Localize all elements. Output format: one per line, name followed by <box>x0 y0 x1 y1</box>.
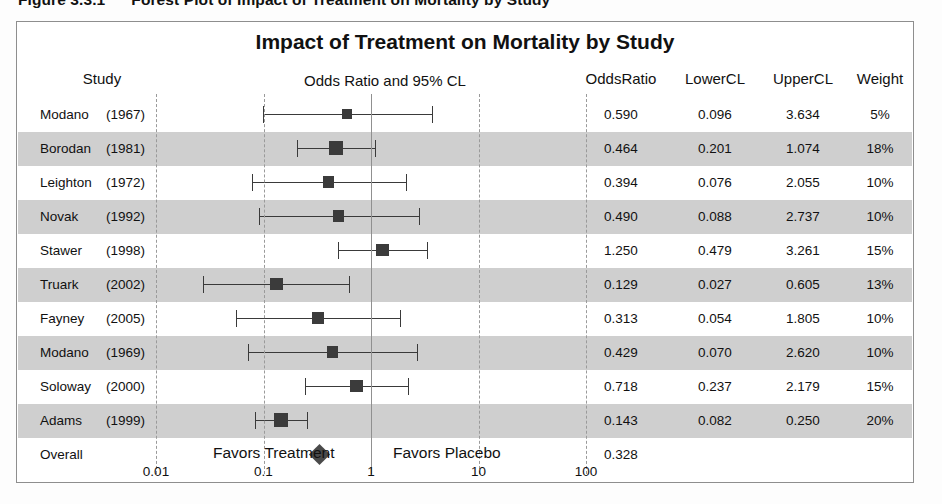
axis-favors-treatment-label: Favors Treatment <box>213 444 334 462</box>
row-odds-ratio-value: 0.590 <box>573 107 669 122</box>
row-odds-ratio-value: 0.490 <box>573 209 669 224</box>
table-row: Truark(2002)0.1290.0270.60513% <box>18 268 912 302</box>
ci-cap-lower <box>263 106 264 123</box>
column-header-plot: Odds Ratio and 95% CL <box>209 72 561 89</box>
row-odds-ratio-value: 0.464 <box>573 141 669 156</box>
study-year: (1967) <box>106 107 145 122</box>
row-study-label: Modano(1969) <box>40 345 175 360</box>
column-header-study: Study <box>41 70 163 87</box>
point-estimate-box <box>329 141 343 155</box>
row-upper-cl-value: 3.261 <box>761 243 845 258</box>
row-upper-cl-value: 1.074 <box>761 141 845 156</box>
table-row: Borodan(1981)0.4640.2011.07418% <box>18 132 912 166</box>
row-odds-ratio-value: 0.313 <box>573 311 669 326</box>
row-lower-cl-value: 0.096 <box>673 107 757 122</box>
table-row: Leighton(1972)0.3940.0762.05510% <box>18 166 912 200</box>
study-year: (2002) <box>106 277 145 292</box>
point-estimate-box <box>333 210 345 222</box>
row-odds-ratio-value: 0.394 <box>573 175 669 190</box>
study-year: (2000) <box>106 379 145 394</box>
row-lower-cl-value: 0.076 <box>673 175 757 190</box>
row-lower-cl-value: 0.027 <box>673 277 757 292</box>
ci-cap-upper <box>406 174 407 191</box>
ci-cap-upper <box>400 310 401 327</box>
row-study-label: Truark(2002) <box>40 277 175 292</box>
point-estimate-box <box>274 413 288 427</box>
column-header-weight: Weight <box>847 70 913 87</box>
ci-cap-upper <box>417 344 418 361</box>
study-year: (1999) <box>106 413 145 428</box>
row-lower-cl-value: 0.070 <box>673 345 757 360</box>
study-year: (1998) <box>106 243 145 258</box>
study-name: Truark <box>40 277 106 292</box>
row-weight-value: 15% <box>847 243 913 258</box>
row-study-label: Borodan(1981) <box>40 141 175 156</box>
x-tick-label-100: 100 <box>556 464 616 479</box>
study-name: Soloway <box>40 379 106 394</box>
row-study-label: Stawer(1998) <box>40 243 175 258</box>
row-weight-value: 13% <box>847 277 913 292</box>
row-upper-cl-value: 3.634 <box>761 107 845 122</box>
row-upper-cl-value: 0.250 <box>761 413 845 428</box>
study-year: (1969) <box>106 345 145 360</box>
row-lower-cl-value: 0.237 <box>673 379 757 394</box>
plot-title: Impact of Treatment on Mortality by Stud… <box>17 30 913 54</box>
table-row: Stawer(1998)1.2500.4793.26115% <box>18 234 912 268</box>
study-name: Leighton <box>40 175 106 190</box>
row-upper-cl-value: 2.737 <box>761 209 845 224</box>
ci-cap-lower <box>248 344 249 361</box>
row-upper-cl-value: 0.605 <box>761 277 845 292</box>
study-name: Fayney <box>40 311 106 326</box>
row-weight-value: 15% <box>847 379 913 394</box>
ci-cap-lower <box>236 310 237 327</box>
ci-cap-upper <box>419 208 420 225</box>
study-name: Modano <box>40 345 106 360</box>
ci-cap-lower <box>255 412 256 429</box>
table-row: Novak(1992)0.4900.0882.73710% <box>18 200 912 234</box>
point-estimate-box <box>323 176 335 188</box>
study-name: Adams <box>40 413 106 428</box>
column-header-odds-ratio: OddsRatio <box>573 70 669 87</box>
column-header-lower-cl: LowerCL <box>673 70 757 87</box>
row-lower-cl-value: 0.054 <box>673 311 757 326</box>
row-lower-cl-value: 0.201 <box>673 141 757 156</box>
ci-cap-upper <box>432 106 433 123</box>
point-estimate-box <box>312 312 324 324</box>
row-study-label: Modano(1967) <box>40 107 175 122</box>
row-weight-value: 18% <box>847 141 913 156</box>
x-tick-label-1: 1 <box>341 464 401 479</box>
row-odds-ratio-value: 0.429 <box>573 345 669 360</box>
row-study-label: Leighton(1972) <box>40 175 175 190</box>
ci-cap-upper <box>349 276 350 293</box>
row-study-label: Novak(1992) <box>40 209 175 224</box>
study-name: Novak <box>40 209 106 224</box>
row-upper-cl-value: 1.805 <box>761 311 845 326</box>
ci-cap-lower <box>305 378 306 395</box>
row-weight-value: 5% <box>847 107 913 122</box>
row-lower-cl-value: 0.082 <box>673 413 757 428</box>
table-row: Fayney(2005)0.3130.0541.80510% <box>18 302 912 336</box>
ci-cap-upper <box>307 412 308 429</box>
study-year: (2005) <box>106 311 145 326</box>
figure-caption-text: Forest Plot of Impact of Treatment on Mo… <box>131 0 550 8</box>
row-lower-cl-value: 0.088 <box>673 209 757 224</box>
row-weight-value: 20% <box>847 413 913 428</box>
study-year: (1972) <box>106 175 145 190</box>
row-study-label: Soloway(2000) <box>40 379 175 394</box>
row-study-label: Adams(1999) <box>40 413 175 428</box>
row-odds-ratio-value: 0.143 <box>573 413 669 428</box>
point-estimate-box <box>270 278 282 290</box>
ci-cap-lower <box>338 242 339 259</box>
ci-cap-upper <box>427 242 428 259</box>
row-odds-ratio-value: 0.718 <box>573 379 669 394</box>
study-name: Borodan <box>40 141 106 156</box>
forest-plot-frame: Impact of Treatment on Mortality by Stud… <box>16 21 914 483</box>
row-study-label: Fayney(2005) <box>40 311 175 326</box>
row-odds-ratio-value: 1.250 <box>573 243 669 258</box>
study-year: (1992) <box>106 209 145 224</box>
x-tick-label-0.1: 0.1 <box>234 464 294 479</box>
x-tick-label-0.01: 0.01 <box>126 464 186 479</box>
row-weight-value: 10% <box>847 311 913 326</box>
ci-cap-lower <box>297 140 298 157</box>
forest-rows: Modano(1967)0.5900.0963.6345%Borodan(198… <box>18 98 912 438</box>
